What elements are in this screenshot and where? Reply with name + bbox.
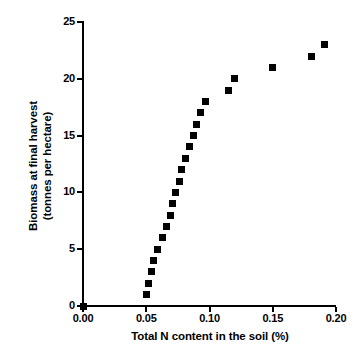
data-point (231, 75, 238, 82)
x-axis-tick-label: 0.00 (61, 313, 105, 324)
y-axis-title: Biomass at final harvest (tonnes per hec… (26, 41, 54, 291)
data-point (225, 87, 232, 94)
y-axis-tick (77, 135, 82, 137)
data-point (172, 189, 179, 196)
data-point (163, 223, 170, 230)
data-point (269, 64, 276, 71)
data-point (190, 132, 197, 139)
data-point (167, 212, 174, 219)
scatter-plot-figure: 0510152025 0.000.050.100.150.20 Total N … (0, 0, 364, 360)
y-axis-tick (77, 191, 82, 193)
y-axis-tick (77, 78, 82, 80)
y-axis-title-line1: Biomass at final harvest (27, 101, 39, 231)
data-point (182, 155, 189, 162)
data-point (143, 291, 150, 298)
data-point (178, 166, 185, 173)
data-point (145, 280, 152, 287)
data-point (202, 98, 209, 105)
y-axis-title-line2: (tonnes per hectare) (40, 41, 54, 291)
data-point (186, 143, 193, 150)
data-point (176, 178, 183, 185)
y-axis-tick (77, 21, 82, 23)
y-axis-tick-label: 25 (49, 16, 75, 27)
data-point (159, 234, 166, 241)
data-point (321, 41, 328, 48)
data-point (193, 121, 200, 128)
data-point (154, 246, 161, 253)
data-point (169, 200, 176, 207)
data-point (197, 109, 204, 116)
x-axis-tick-label: 0.20 (314, 313, 358, 324)
x-axis-title: Total N content in the soil (%) (60, 330, 360, 342)
data-point (150, 257, 157, 264)
y-axis-tick-label: 0 (49, 300, 75, 311)
data-point (308, 53, 315, 60)
y-axis-tick (77, 248, 82, 250)
x-axis-tick-label: 0.15 (251, 313, 295, 324)
data-point (80, 303, 87, 310)
data-point (148, 268, 155, 275)
x-axis-tick-label: 0.05 (124, 313, 168, 324)
x-axis-tick-label: 0.10 (188, 313, 232, 324)
y-axis-line (82, 21, 84, 307)
